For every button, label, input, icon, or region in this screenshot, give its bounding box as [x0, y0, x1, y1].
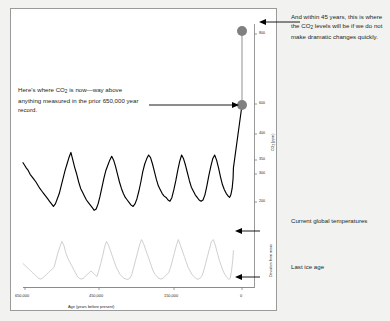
arrow-to-last-ice-age-inner — [235, 274, 260, 280]
x-tick-label-0: 0 — [240, 293, 242, 298]
x-axis-title: Age (years before present) — [68, 304, 114, 309]
temperature-curve — [23, 240, 233, 280]
x-tick-label-650000: 650,000 — [15, 293, 29, 298]
annotation-projected-co2: And within 45 years, this is where the C… — [291, 12, 386, 41]
y-axis-title: CO2 (ppm) — [271, 134, 276, 151]
y-tick-label-800: 800 — [259, 31, 265, 35]
annotation-last-ice-age: Last ice age — [291, 262, 381, 271]
arrow-to-projected-co2 — [255, 14, 303, 30]
y-axis-ticks — [255, 34, 258, 202]
arrow-to-current-temperature-inner — [235, 228, 260, 234]
chart-svg — [11, 9, 276, 310]
plot-area: 800 600 400 350 300 200 CO2 (ppm) Deviat… — [11, 9, 276, 310]
y-tick-label-600: 600 — [259, 101, 265, 105]
y-tick-label-400: 400 — [259, 131, 265, 135]
x-tick-label-150000: 150,000 — [164, 293, 178, 298]
y-tick-label-200: 200 — [259, 199, 265, 203]
arrow-to-current-co2 — [149, 102, 239, 108]
x-tick-label-450000: 450,000 — [89, 293, 103, 298]
projected-co2-marker-dot[interactable] — [237, 26, 247, 36]
chart-page: 800 600 400 350 300 200 CO2 (ppm) Deviat… — [0, 0, 390, 321]
chart-panel: 800 600 400 350 300 200 CO2 (ppm) Deviat… — [10, 8, 277, 311]
y-tick-label-350: 350 — [259, 157, 265, 161]
annotation-current-co2: Here's where CO2 is now—way above anythi… — [18, 85, 146, 114]
secondary-y-axis-title: Deviation from mean — [269, 244, 273, 277]
y-tick-label-300: 300 — [259, 171, 265, 175]
curves-group — [23, 105, 242, 279]
co2-curve — [23, 105, 242, 210]
annotation-current-temperature: Current global temperatures — [291, 216, 381, 225]
